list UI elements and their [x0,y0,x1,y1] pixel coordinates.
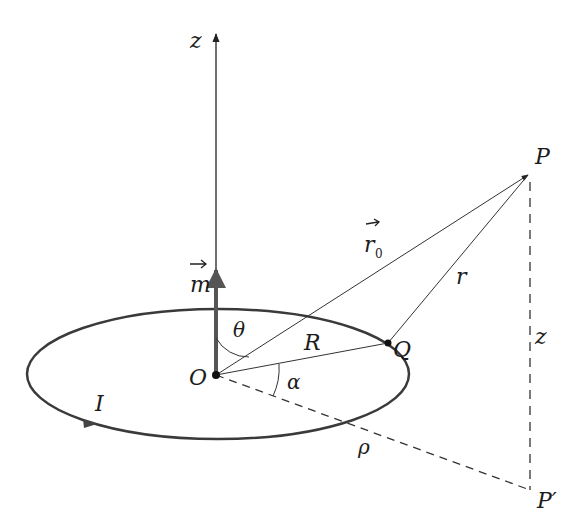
rho-label: ρ [357,435,370,459]
r0-subscript: 0 [375,247,383,261]
P-prime-label: P′ [536,488,557,513]
Q-label: Q [393,337,411,362]
r0-vector-arrow-icon [366,219,379,226]
dipole-diagram: z m r 0 r P P′ Q O θ α R I z ρ [0,0,583,526]
z-axis-label: z [189,28,202,53]
rho-line [216,375,530,490]
alpha-arc [273,364,279,396]
r-label: r [456,264,468,289]
current-label: I [94,391,105,416]
moment-label: m [190,272,211,297]
origin-point [212,371,220,379]
origin-label: O [189,365,207,390]
height-z-label: z [534,324,547,349]
moment-vector-arrow-icon [190,260,206,268]
point-Q [385,340,392,347]
r-vector [388,175,528,343]
R-label: R [303,330,321,355]
current-arrow-icon [83,419,97,428]
alpha-label: α [287,370,301,394]
r0-vector [216,175,528,375]
theta-label: θ [233,318,245,342]
P-label: P [534,144,551,169]
